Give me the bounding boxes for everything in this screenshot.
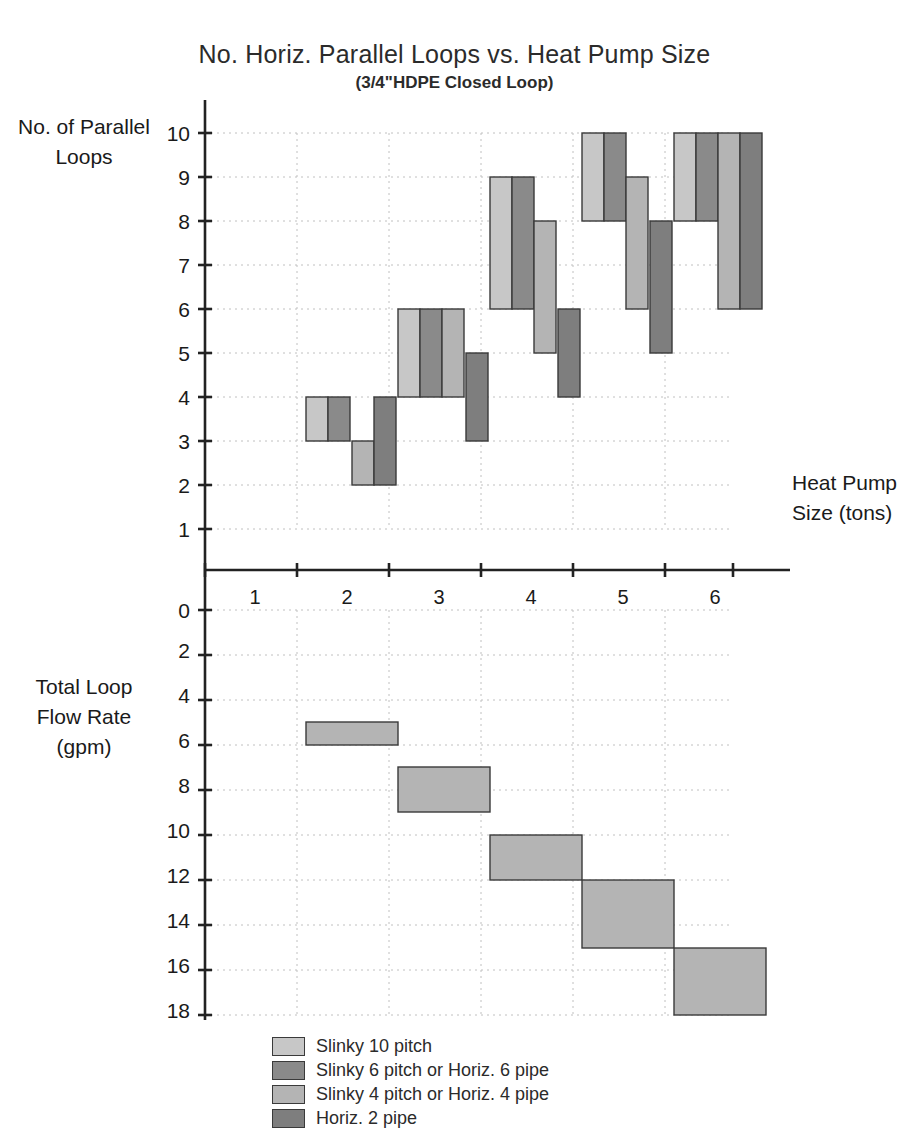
flow-rate-bars [306,722,766,1015]
bar-s2-2tons [328,397,350,441]
bar-s1-4tons [490,177,512,309]
bar-s2-5tons [604,133,626,221]
bar-s3-6tons [718,133,740,309]
legend-label: Slinky 4 pitch or Horiz. 4 pipe [316,1085,549,1104]
flow-bar-2tons [306,722,398,745]
legend-label: Slinky 6 pitch or Horiz. 6 pipe [316,1061,549,1080]
bar-s1-6tons [674,133,696,221]
lower-axes [198,570,212,1020]
flow-bar-4tons [490,835,582,880]
bar-s1-5tons [582,133,604,221]
bar-s3-2tons [352,441,374,485]
legend-swatch-icon [272,1037,305,1056]
chart-figure: No. Horiz. Parallel Loops vs. Heat Pump … [0,0,909,1143]
bar-s1-3tons [398,309,420,397]
flow-bar-6tons [674,948,766,1015]
bar-group-4tons [490,177,580,397]
legend-swatch-icon [272,1061,305,1080]
bar-group-6tons [674,133,762,309]
bar-s4-6tons [740,133,762,309]
bar-s1-2tons [306,397,328,441]
bar-s3-3tons [442,309,464,397]
plot-canvas: .gridline{stroke:#c0c0c0;stroke-width:1;… [0,0,909,1143]
bar-s2-4tons [512,177,534,309]
bar-s3-5tons [626,177,648,309]
legend-label: Slinky 10 pitch [316,1037,432,1056]
bar-s4-3tons [466,353,488,441]
bar-s4-4tons [558,309,580,397]
bar-s3-4tons [534,221,556,353]
legend-item-slinky-10-pitch[interactable]: Slinky 10 pitch [272,1035,549,1057]
bar-group-3tons [398,309,488,441]
chart-legend: Slinky 10 pitch Slinky 6 pitch or Horiz.… [272,1035,549,1131]
bar-s2-3tons [420,309,442,397]
legend-item-slinky-4-pitch[interactable]: Slinky 4 pitch or Horiz. 4 pipe [272,1083,549,1105]
bar-s4-2tons [374,397,396,485]
legend-swatch-icon [272,1085,305,1104]
bar-s4-5tons [650,221,672,353]
legend-item-slinky-6-pitch[interactable]: Slinky 6 pitch or Horiz. 6 pipe [272,1059,549,1081]
legend-swatch-icon [272,1109,305,1128]
legend-label: Horiz. 2 pipe [316,1109,417,1128]
legend-item-horiz-2-pipe[interactable]: Horiz. 2 pipe [272,1107,549,1129]
bar-group-5tons [582,133,672,353]
flow-bar-3tons [398,767,490,812]
bar-s2-6tons [696,133,718,221]
flow-bar-5tons [582,880,674,948]
